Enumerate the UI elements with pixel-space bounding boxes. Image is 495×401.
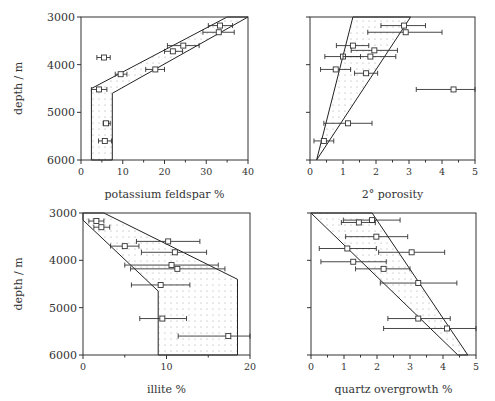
square-marker (216, 30, 221, 35)
panel-potassium-feldspar: 0102030403000400050006000potassium felds… (12, 11, 254, 201)
envelope-band (91, 17, 248, 160)
square-marker (169, 263, 174, 268)
square-marker (350, 43, 355, 48)
square-marker (409, 250, 414, 255)
square-marker (402, 23, 407, 28)
x-tick-label: 2 (373, 166, 379, 177)
square-marker (368, 54, 373, 59)
panel-quartz-overgrowth: 012345quartz overgrowth % (307, 213, 479, 396)
x-tick-label: 4 (439, 166, 445, 177)
x-tick-label: 5 (472, 166, 478, 177)
square-marker (153, 67, 158, 72)
y-axis-label: depth / m (12, 61, 25, 115)
square-marker (158, 282, 163, 287)
data-point (97, 55, 110, 60)
square-marker (374, 234, 379, 239)
square-marker (226, 334, 231, 339)
y-tick-label: 4000 (49, 254, 77, 267)
figure-canvas: 0102030403000400050006000potassium felds… (0, 0, 495, 401)
x-tick-label: 3 (406, 166, 412, 177)
y-tick-label: 5000 (49, 302, 77, 315)
square-marker (345, 246, 350, 251)
square-marker (345, 121, 350, 126)
square-marker (321, 138, 326, 143)
square-marker (170, 49, 175, 54)
square-marker (333, 67, 338, 72)
y-tick-label: 6000 (49, 349, 77, 362)
square-marker (118, 72, 123, 77)
square-marker (160, 316, 165, 321)
x-tick-label: 1 (340, 166, 346, 177)
x-axis-label: illite % (147, 383, 186, 396)
square-marker (444, 326, 449, 331)
x-tick-label: 0 (307, 166, 313, 177)
y-tick-label: 5000 (47, 106, 75, 119)
panel-illite: 010203000400050006000illite %depth / m (12, 207, 256, 396)
x-tick-label: 2 (374, 361, 380, 372)
x-tick-label: 0 (80, 361, 86, 372)
y-tick-label: 4000 (47, 59, 75, 72)
envelope-band (311, 213, 468, 355)
x-tick-label: 3 (407, 361, 413, 372)
x-tick-label: 20 (244, 361, 256, 372)
x-tick-label: 40 (242, 166, 254, 177)
square-marker (372, 48, 377, 53)
x-tick-label: 5 (473, 361, 479, 372)
envelope-band (317, 17, 411, 160)
data-point (416, 87, 475, 92)
panel-secondary-porosity: 0123452° porosity (306, 17, 478, 201)
square-marker (101, 55, 106, 60)
square-marker (218, 23, 223, 28)
x-tick-label: 4 (440, 361, 446, 372)
square-marker (416, 281, 421, 286)
x-tick-label: 30 (200, 166, 212, 177)
x-tick-label: 10 (117, 166, 129, 177)
square-marker (381, 266, 386, 271)
square-marker (172, 250, 177, 255)
square-marker (102, 138, 107, 143)
square-marker (122, 244, 127, 249)
x-tick-label: 10 (160, 361, 172, 372)
square-marker (416, 316, 421, 321)
square-marker (403, 30, 408, 35)
square-marker (370, 218, 375, 223)
square-marker (104, 121, 109, 126)
x-tick-label: 0 (78, 166, 84, 177)
square-marker (175, 266, 180, 271)
x-tick-label: 20 (158, 166, 170, 177)
square-marker (181, 43, 186, 48)
y-tick-label: 3000 (47, 11, 75, 24)
square-marker (356, 220, 361, 225)
square-marker (364, 71, 369, 76)
y-tick-label: 3000 (49, 207, 77, 220)
x-axis-label: quartz overgrowth % (334, 383, 452, 396)
x-axis-label: 2° porosity (362, 188, 424, 201)
x-tick-label: 1 (341, 361, 347, 372)
square-marker (166, 239, 171, 244)
square-marker (99, 225, 104, 230)
square-marker (96, 87, 101, 92)
y-tick-label: 6000 (47, 154, 75, 167)
square-marker (351, 259, 356, 264)
y-axis-label: depth / m (12, 257, 25, 311)
x-axis-label: potassium feldspar % (104, 188, 224, 201)
square-marker (94, 219, 99, 224)
x-tick-label: 0 (308, 361, 314, 372)
square-marker (451, 87, 456, 92)
